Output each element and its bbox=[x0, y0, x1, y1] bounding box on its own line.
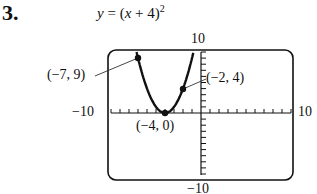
point-label: (−2, 4) bbox=[206, 70, 244, 86]
ymax-label: 10 bbox=[191, 31, 205, 47]
graph-screen bbox=[0, 0, 317, 194]
point-marker bbox=[135, 55, 141, 61]
point-marker bbox=[180, 86, 186, 92]
xmax-label: 10 bbox=[298, 104, 312, 120]
ymin-label: −10 bbox=[187, 181, 209, 194]
parabola-curve bbox=[137, 52, 194, 113]
point-label: (−4, 0) bbox=[136, 118, 174, 134]
point-label: (−7, 9) bbox=[47, 67, 85, 83]
point-marker bbox=[162, 110, 168, 116]
leader-line-1 bbox=[95, 58, 138, 76]
xmin-label: −10 bbox=[72, 104, 94, 120]
